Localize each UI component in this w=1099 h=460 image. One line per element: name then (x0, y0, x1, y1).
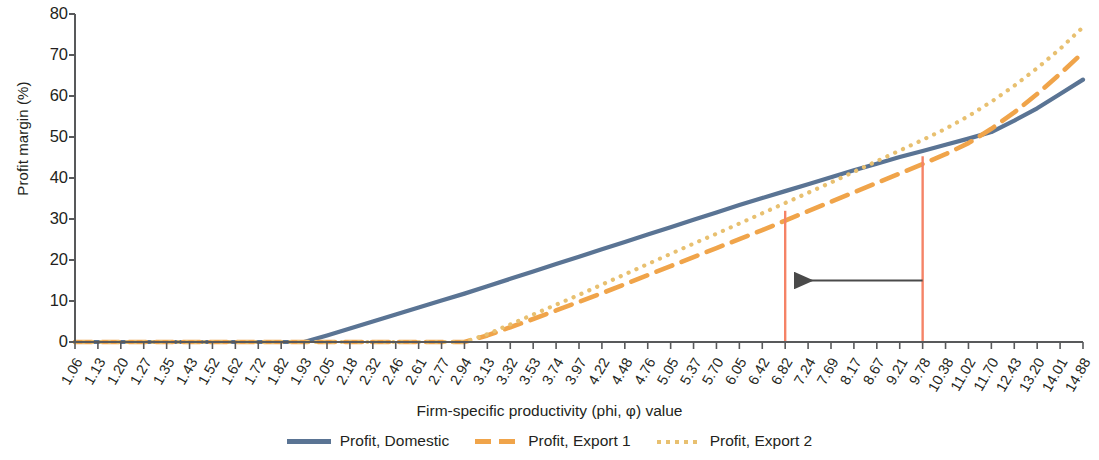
legend-item[interactable]: Profit, Export 1 (475, 432, 631, 450)
legend-item-label: Profit, Domestic (340, 432, 449, 450)
plot-area (0, 0, 1099, 400)
line-dashed-icon (475, 434, 519, 448)
chart-legend: Profit, DomesticProfit, Export 1Profit, … (0, 432, 1099, 450)
axis-layer (69, 14, 1083, 349)
legend-item[interactable]: Profit, Export 2 (657, 432, 813, 450)
legend-item-label: Profit, Export 1 (528, 432, 631, 450)
series-line-2 (75, 53, 1083, 342)
series-layer (75, 27, 1083, 342)
x-axis-title: Firm-specific productivity (phi, φ) valu… (0, 402, 1099, 420)
line-dotted-icon (657, 434, 701, 448)
series-line-3 (75, 27, 1083, 342)
profit-margin-line-chart: Profit margin (%) 01020304050607080 1.06… (0, 0, 1099, 460)
line-solid-icon (287, 434, 331, 448)
legend-item-label: Profit, Export 2 (710, 432, 813, 450)
legend-item[interactable]: Profit, Domestic (287, 432, 449, 450)
series-line-1 (75, 80, 1083, 342)
